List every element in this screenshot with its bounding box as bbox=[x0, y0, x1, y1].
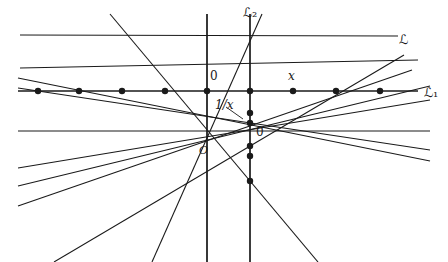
dot-l1-0 bbox=[35, 88, 41, 94]
dot-l2-1 bbox=[247, 120, 253, 126]
label-line-l1: ℒ₁ bbox=[424, 86, 438, 99]
dot-l1-4 bbox=[204, 88, 210, 94]
dot-l2-0 bbox=[247, 110, 253, 116]
pencil-ray-11 bbox=[54, 55, 404, 262]
dot-l2-2 bbox=[247, 143, 253, 149]
label-point-x: x bbox=[288, 70, 295, 82]
dot-l1-5 bbox=[247, 88, 253, 94]
figure-canvas: ℒ₁ ℒ₂ ℒ O 0 0 x 1/x bbox=[0, 0, 448, 262]
pencil-ray-3 bbox=[20, 60, 418, 68]
dot-l1-6 bbox=[290, 88, 296, 94]
label-zero-on-l1: 0 bbox=[210, 70, 218, 82]
dot-l1-8 bbox=[377, 88, 383, 94]
dot-l2-4 bbox=[247, 178, 253, 184]
geometry-svg bbox=[0, 0, 448, 262]
label-line-l2: ℒ₂ bbox=[243, 6, 257, 19]
dot-l1-2 bbox=[119, 88, 125, 94]
label-zero-on-l2: 0 bbox=[256, 126, 264, 138]
label-point-reciprocal: 1/x bbox=[215, 99, 233, 111]
label-origin: O bbox=[199, 145, 208, 156]
dot-l1-3 bbox=[162, 88, 168, 94]
dot-l1-1 bbox=[76, 88, 82, 94]
pencil-lines-group bbox=[18, 14, 430, 262]
dot-l1-7 bbox=[333, 88, 339, 94]
label-line-l: ℒ bbox=[399, 33, 408, 46]
dot-l2-3 bbox=[247, 153, 253, 159]
pencil-ray-4 bbox=[20, 35, 398, 36]
